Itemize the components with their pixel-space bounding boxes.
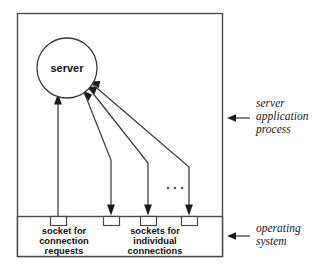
annotation-os-line-1: operating [256,222,301,235]
callout-operating-system: operating system [227,222,301,248]
callout-server-process: server application process [227,97,309,136]
socket-listen[interactable] [51,217,67,226]
label-individual-connections: sockets for individual connections [128,226,183,256]
label-connection-requests: socket for connection requests [39,226,89,256]
svg-text:connection: connection [39,236,89,246]
annotation-server-line-2: application [256,110,309,123]
annotation-os-line-2: system [256,235,287,248]
svg-text:connections: connections [128,246,183,256]
socket-conn-2[interactable] [141,217,157,226]
arrow-head-callout-server-process [227,114,236,121]
svg-text:sockets for: sockets for [130,226,180,236]
arrow-head-callout-operating-system [227,232,236,239]
server-node-label: server [50,62,84,74]
svg-text:requests: requests [45,246,84,256]
socket-conn-3[interactable] [182,217,198,226]
annotation-server-line-1: server [256,97,285,109]
annotation-server-line-3: process [255,123,291,136]
socket-architecture-diagram: server socket for connection requests so… [0,0,335,270]
diagram-canvas: server socket for connection requests so… [0,0,335,270]
svg-text:individual: individual [133,236,176,246]
socket-conn-1[interactable] [104,217,120,226]
svg-text:socket for: socket for [42,226,87,236]
